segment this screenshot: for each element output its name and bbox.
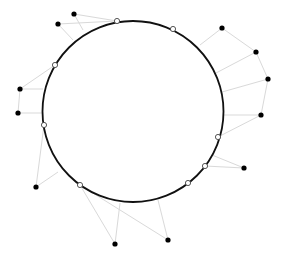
main-circle [43, 21, 224, 202]
external-point [165, 237, 170, 242]
connector-line [256, 52, 268, 79]
external-point [112, 241, 117, 246]
connector-line [222, 79, 268, 92]
external-point [55, 21, 60, 26]
connector-line [216, 52, 256, 73]
circle-projection-diagram [0, 0, 284, 259]
connector-line [205, 166, 244, 168]
external-point [219, 25, 224, 30]
circle-point [185, 180, 190, 185]
circle-point [77, 182, 82, 187]
circle-point [114, 18, 119, 23]
external-point [33, 184, 38, 189]
external-point [17, 86, 22, 91]
circle-point [202, 163, 207, 168]
connector-line [74, 14, 83, 30]
external-point [258, 112, 263, 117]
connector-line [218, 115, 261, 137]
connector-line [36, 172, 58, 187]
circle-point [52, 62, 57, 67]
external-points [15, 11, 270, 246]
external-point [15, 110, 20, 115]
external-point [265, 76, 270, 81]
connector-line [212, 155, 244, 168]
external-point [241, 165, 246, 170]
connector-line [200, 28, 222, 45]
circle-point [170, 26, 175, 31]
connector-line [18, 89, 20, 113]
connector-line [58, 24, 73, 40]
external-point [71, 11, 76, 16]
connector-line [222, 28, 256, 52]
connector-lines [18, 14, 268, 244]
connector-line [74, 14, 117, 21]
connector-line [261, 79, 268, 115]
connector-line [36, 125, 44, 187]
circle-point [215, 134, 220, 139]
connector-line [158, 200, 168, 240]
external-point [253, 49, 258, 54]
circle-point [41, 122, 46, 127]
